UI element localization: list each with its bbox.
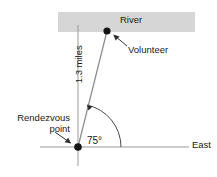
volunteer-label: Volunteer [128,45,168,56]
distance-label: 1.3 miles [74,42,85,86]
angle-label: 75° [87,136,102,147]
math-diagram: River Volunteer 1.3 miles Rendezvous poi… [0,0,217,177]
diagram-canvas [0,0,217,177]
rendezvous-point-marker [74,143,82,151]
river-label: River [120,15,142,26]
east-direction-label: East [192,140,211,151]
volunteer-leader-arrowhead-icon [113,35,119,41]
rendezvous-point-label: Rendezvous point [6,112,70,134]
rendezvous-leader-arrowhead-icon [65,138,72,144]
volunteer-point-marker [103,27,110,34]
